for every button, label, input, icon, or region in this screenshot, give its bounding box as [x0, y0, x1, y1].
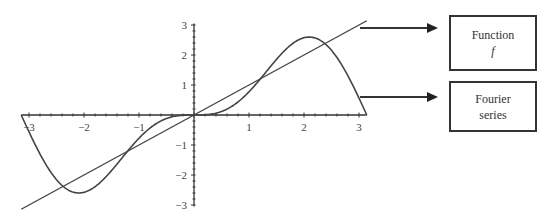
arrowhead-fourier-icon	[427, 92, 438, 102]
legend-box-function: Function f	[449, 15, 537, 71]
y-tick-label: 2	[182, 49, 188, 61]
legend-box-fourier: Fourier series	[449, 81, 537, 132]
y-tick-label: −3	[175, 199, 187, 211]
x-tick-label: −2	[78, 121, 90, 133]
y-tick-label: −1	[175, 139, 187, 151]
y-tick-label: −2	[175, 169, 187, 181]
y-tick-label: 1	[182, 79, 188, 91]
x-tick-label: 2	[301, 121, 307, 133]
legend-function-symbol: f	[491, 43, 494, 59]
legend-fourier-line1: Fourier	[475, 91, 510, 107]
x-tick-label: −1	[133, 121, 145, 133]
x-tick-label: 1	[246, 121, 252, 133]
legend-function-label: Function	[472, 27, 515, 43]
arrows	[360, 23, 438, 102]
x-tick-label: 3	[356, 121, 362, 133]
legend-fourier-line2: series	[479, 107, 506, 123]
arrowhead-function-icon	[427, 23, 438, 33]
y-tick-label: 3	[182, 19, 188, 31]
